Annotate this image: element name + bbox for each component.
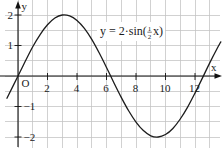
x-tick-label: 8 [133,82,139,94]
y-tick-label: 1 [8,39,14,51]
y-axis-arrow-icon [15,1,21,9]
x-tick-label: 10 [160,82,172,94]
function-graph: 2468101221−1−2 y = 2·sin( 1 2 x) y x O [0,0,222,153]
x-axis-label: x [211,61,217,73]
y-tick-label: 2 [8,9,14,21]
x-tick-label: 6 [103,82,109,94]
x-tick-label: 4 [74,82,80,94]
y-tick-label: −1 [24,100,36,112]
equation-suffix: x) [153,24,163,38]
equation-fraction-numerator: 1 [148,25,152,33]
equation-fraction-denominator: 2 [148,33,152,41]
x-tick-label: 2 [44,82,50,94]
axis-labels: y x O [22,0,218,89]
x-axis-arrow-icon [215,73,223,79]
origin-label: O [22,77,30,89]
equation-label: y = 2·sin( 1 2 x) [97,22,165,41]
equation-prefix: y = 2·sin( [100,24,147,38]
y-tick-label: −2 [24,131,36,143]
y-axis-label: y [22,0,28,12]
